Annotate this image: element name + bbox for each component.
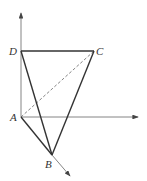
geometry-diagram: D C A B: [0, 0, 147, 181]
diagonal-axis: [52, 155, 70, 176]
label-b: B: [45, 158, 52, 170]
edge-db: [21, 51, 52, 155]
edge-ab: [21, 117, 52, 155]
label-d: D: [8, 45, 17, 57]
label-a: A: [9, 111, 17, 123]
edge-cb: [52, 51, 94, 155]
diagram-svg: D C A B: [0, 0, 147, 181]
label-c: C: [96, 45, 104, 57]
edge-ac-dashed: [21, 51, 94, 117]
